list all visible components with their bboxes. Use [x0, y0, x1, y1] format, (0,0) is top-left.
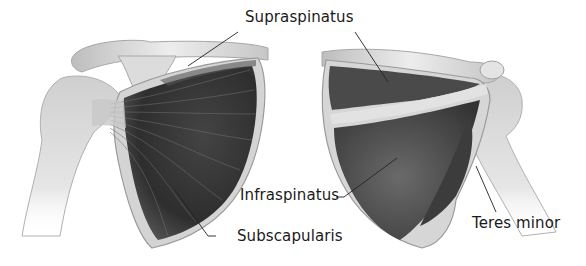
label-subscapularis: Subscapularis	[237, 229, 343, 244]
anterior-view	[22, 40, 268, 248]
subscapularis-tendon	[92, 99, 126, 128]
humeral-head-right	[480, 61, 504, 79]
label-supraspinatus: Supraspinatus	[245, 10, 354, 25]
label-teres-minor: Teres minor	[472, 216, 560, 231]
label-infraspinatus: Infraspinatus	[240, 188, 339, 203]
